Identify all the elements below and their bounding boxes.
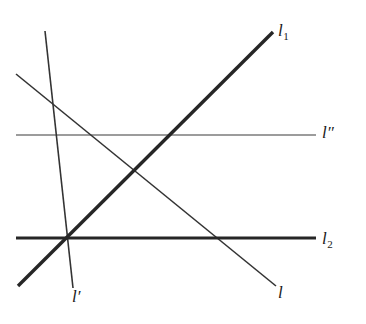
label-l: l [278,284,283,301]
line-l [16,74,276,286]
label-l-base: l [278,283,283,302]
label-l1-subscript: 1 [283,30,289,42]
label-l2-subscript: 2 [327,238,333,250]
label-l-double-prime: l″ [322,124,334,141]
label-l1: l1 [278,22,289,42]
label-l-prime: l′ [72,288,81,305]
line-l1 [18,32,273,286]
label-l2: l2 [322,230,333,250]
geometry-figure: l1 l″ l2 l′ l [0,0,366,324]
label-l-prime-mark: ′ [77,287,81,306]
label-l-double-prime-mark: ″ [327,123,334,142]
geometry-canvas [0,0,366,324]
line-l-prime [45,31,73,288]
